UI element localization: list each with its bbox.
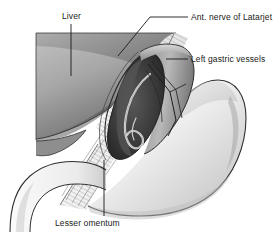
anatomical-figure: Liver Ant. nerve of Latarjet Left gastri… xyxy=(0,0,280,234)
label-lesser-omentum: Lesser omentum xyxy=(55,218,120,228)
label-ant-nerve-of-latarjet: Ant. nerve of Latarjet xyxy=(191,12,272,22)
label-liver: Liver xyxy=(62,11,81,21)
illustration-canvas xyxy=(0,0,280,234)
label-left-gastric-vessels: Left gastric vessels xyxy=(191,54,265,64)
